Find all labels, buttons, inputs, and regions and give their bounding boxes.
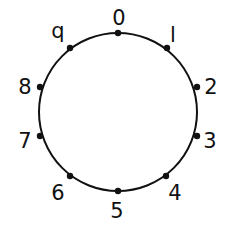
point-dot-0 bbox=[115, 30, 121, 36]
point-dot-3 bbox=[194, 133, 200, 139]
point-dot-4 bbox=[163, 173, 169, 179]
point-label-7: 7 bbox=[18, 129, 31, 153]
point-label-2: 2 bbox=[204, 75, 217, 99]
point-label-6: 6 bbox=[51, 181, 64, 205]
points-layer bbox=[37, 30, 200, 194]
point-dot-2 bbox=[194, 84, 200, 90]
point-label-5: 5 bbox=[110, 199, 123, 223]
point-dot-6 bbox=[67, 173, 73, 179]
diagram-svg: 0l2345678q bbox=[0, 0, 230, 231]
point-label-0: 0 bbox=[112, 6, 125, 30]
circle-diagram: 0l2345678q bbox=[0, 0, 230, 231]
point-label-3: 3 bbox=[203, 129, 216, 153]
point-dot-7 bbox=[37, 133, 43, 139]
main-circle bbox=[39, 33, 197, 191]
point-label-4: 4 bbox=[168, 181, 181, 205]
point-label-9: q bbox=[51, 19, 64, 43]
point-dot-5 bbox=[115, 188, 121, 194]
point-label-8: 8 bbox=[18, 75, 31, 99]
point-label-1: l bbox=[170, 23, 176, 47]
point-dot-8 bbox=[37, 84, 43, 90]
point-dot-9 bbox=[67, 45, 73, 51]
